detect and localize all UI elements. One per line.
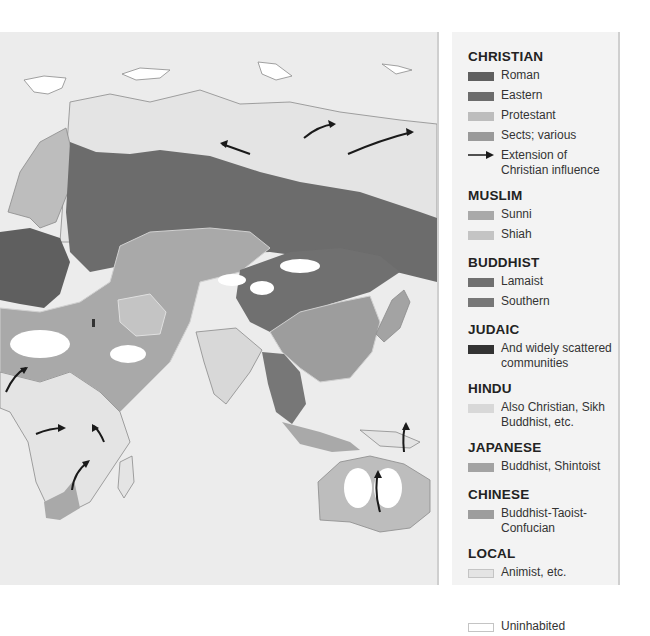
swatch-protestant	[468, 112, 494, 121]
legend-group-local: LOCAL Animist, etc.	[468, 546, 618, 583]
item-label: And widely scattered communities	[501, 341, 613, 371]
religion-map	[0, 32, 439, 585]
legend-item-eastern: Eastern	[468, 88, 618, 106]
swatch-uninhabited	[468, 623, 494, 632]
swatch-roman	[468, 72, 494, 81]
india-hindu	[196, 328, 262, 404]
madagascar	[118, 456, 134, 498]
item-label: Lamaist	[501, 274, 543, 289]
swatch-sects	[468, 132, 494, 141]
australia	[318, 456, 430, 532]
legend-group-hindu: HINDU Also Christian, Sikh Buddhist, etc…	[468, 381, 618, 430]
legend-group-japanese: JAPANESE Buddhist, Shintoist	[468, 440, 618, 477]
legend-item-chinese: Buddhist-Taoist-Confucian	[468, 506, 618, 536]
legend-item-uninhabited: Uninhabited	[468, 619, 618, 636]
indonesia	[282, 422, 360, 452]
legend-group-christian: CHRISTIAN Roman Eastern Protestant Sects…	[468, 49, 618, 178]
item-label: Roman	[501, 68, 540, 83]
map-graphic	[0, 32, 437, 585]
group-title: HINDU	[468, 381, 618, 397]
legend-item-sects: Sects; various	[468, 128, 618, 146]
item-label: Sunni	[501, 207, 532, 222]
item-label: Buddhist, Shintoist	[501, 459, 600, 474]
item-label: Protestant	[501, 108, 556, 123]
legend-item-shiah: Shiah	[468, 227, 618, 245]
item-label: Southern	[501, 294, 550, 309]
japan	[376, 290, 410, 342]
arrow-right-icon	[468, 148, 494, 163]
legend-item-hindu: Also Christian, Sikh Buddhist, etc.	[468, 400, 618, 430]
israel-judaic	[92, 319, 95, 327]
swatch-hindu	[468, 404, 494, 413]
europe-roman	[0, 228, 70, 308]
swatch-southern	[468, 298, 494, 307]
legend-item-southern: Southern	[468, 294, 618, 312]
swatch-chinese	[468, 510, 494, 519]
legend-group-chinese: CHINESE Buddhist-Taoist-Confucian	[468, 487, 618, 536]
swatch-lamaist	[468, 278, 494, 287]
item-label: Animist, etc.	[501, 565, 566, 580]
legend-group-muslim: MUSLIM Sunni Shiah	[468, 188, 618, 245]
legend-item-protestant: Protestant	[468, 108, 618, 126]
swatch-eastern	[468, 92, 494, 101]
group-title: CHRISTIAN	[468, 49, 618, 65]
swatch-judaic	[468, 345, 494, 354]
legend-item-judaic: And widely scattered communities	[468, 341, 618, 371]
item-label: Also Christian, Sikh Buddhist, etc.	[501, 400, 613, 430]
item-label: Eastern	[501, 88, 542, 103]
swatch-local	[468, 569, 494, 578]
group-title: JUDAIC	[468, 322, 618, 338]
group-title: CHINESE	[468, 487, 618, 503]
group-title: LOCAL	[468, 546, 618, 562]
item-label: Buddhist-Taoist-Confucian	[501, 506, 613, 536]
legend-panel: CHRISTIAN Roman Eastern Protestant Sects…	[452, 32, 620, 585]
group-title: JAPANESE	[468, 440, 618, 456]
legend-group-buddhist: BUDDHIST Lamaist Southern	[468, 255, 618, 312]
legend-item-roman: Roman	[468, 68, 618, 86]
swatch-sunni	[468, 211, 494, 220]
legend-item-lamaist: Lamaist	[468, 274, 618, 292]
swatch-shiah	[468, 231, 494, 240]
item-label: Extension of Christian influence	[501, 148, 613, 178]
new-guinea	[360, 430, 420, 448]
item-label: Sects; various	[501, 128, 576, 143]
item-label: Uninhabited	[501, 619, 565, 634]
legend-item-local: Animist, etc.	[468, 565, 618, 583]
legend-spacer	[468, 593, 618, 619]
swatch-japanese	[468, 463, 494, 472]
group-title: BUDDHIST	[468, 255, 618, 271]
legend-group-judaic: JUDAIC And widely scattered communities	[468, 322, 618, 371]
legend-item-extension: Extension of Christian influence	[468, 148, 618, 178]
item-label: Shiah	[501, 227, 532, 242]
legend-item-sunni: Sunni	[468, 207, 618, 225]
legend-item-japanese: Buddhist, Shintoist	[468, 459, 618, 477]
group-title: MUSLIM	[468, 188, 618, 204]
